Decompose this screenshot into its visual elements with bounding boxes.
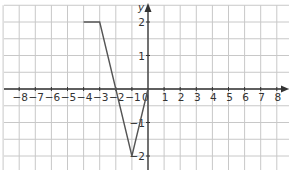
y-axis-label: y: [137, 1, 145, 13]
x-tick-label: −7: [29, 91, 44, 103]
x-tick-label: 3: [194, 91, 201, 103]
grid-lines: [3, 5, 289, 170]
x-tick-label: −6: [45, 91, 61, 103]
x-tick-label: 7: [258, 91, 265, 103]
x-tick-label: 4: [210, 91, 217, 103]
line-chart: y −8−7−6−5−4−3−2−101234567821−1−2: [0, 0, 289, 170]
axes: y: [4, 1, 289, 170]
x-tick-label: −8: [12, 91, 27, 103]
y-tick-label: 1: [138, 50, 145, 62]
x-tick-label: −5: [61, 91, 76, 103]
y-axis-arrow-icon: [145, 3, 152, 12]
x-axis-arrow-icon: [281, 86, 289, 93]
y-tick-label: 2: [138, 16, 145, 28]
x-tick-label: −1: [125, 91, 140, 103]
x-tick-label: 5: [226, 91, 233, 103]
x-tick-label: 2: [178, 91, 185, 103]
x-tick-label: 8: [274, 91, 281, 103]
x-tick-label: −3: [93, 91, 108, 103]
x-tick-label: 6: [242, 91, 249, 103]
x-tick-label: −4: [77, 91, 93, 103]
x-tick-label: 1: [162, 91, 169, 103]
y-tick-label: −1: [130, 117, 145, 129]
